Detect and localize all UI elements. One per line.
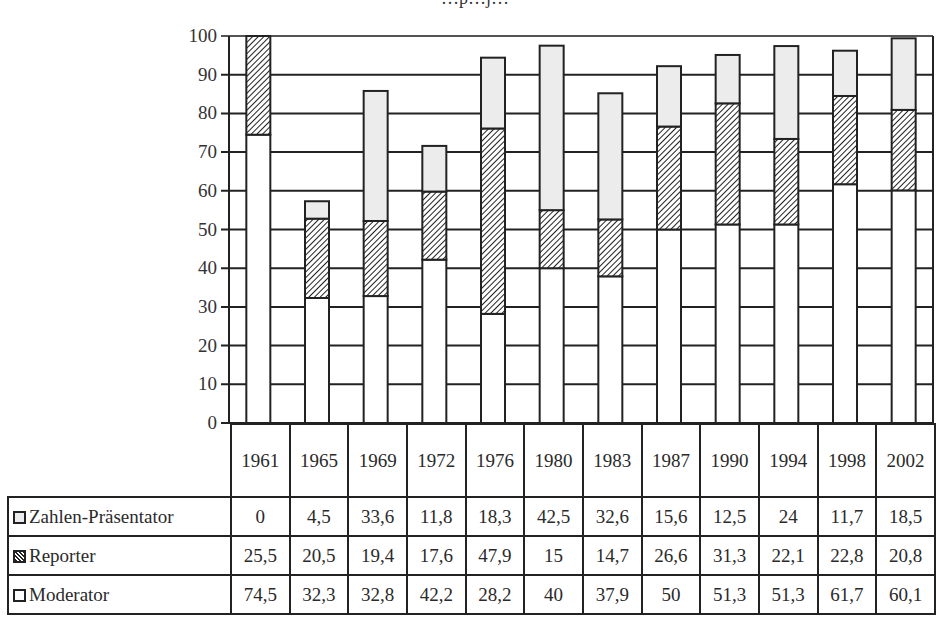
y-tick-label: 30 <box>198 296 217 317</box>
value-cell: 14,7 <box>583 536 642 575</box>
bar-segment-moderator <box>833 184 857 423</box>
year-header-cell: 1994 <box>759 424 818 497</box>
value-cell: 24 <box>759 497 818 536</box>
value-cell: 47,9 <box>466 536 525 575</box>
year-header-row: 1961196519691972197619801983198719901994… <box>8 424 935 497</box>
table-row: Zahlen-Präsentator04,533,611,818,342,532… <box>8 497 935 536</box>
value-cell: 60,1 <box>876 575 935 614</box>
bar-segment-moderator <box>540 268 564 423</box>
legend-swatch-icon <box>13 511 26 524</box>
bar-segment-reporter <box>481 128 505 313</box>
value-cell: 15,6 <box>642 497 701 536</box>
bar-segment-reporter <box>833 96 857 184</box>
bar-segment-reporter <box>657 127 681 230</box>
value-cell: 42,2 <box>407 575 466 614</box>
value-cell: 51,3 <box>700 575 759 614</box>
value-cell: 31,3 <box>700 536 759 575</box>
year-header-cell: 1987 <box>642 424 701 497</box>
value-cell: 32,3 <box>290 575 349 614</box>
table-row: Reporter25,520,519,417,647,91514,726,631… <box>8 536 935 575</box>
bar-segment-reporter <box>774 139 798 225</box>
year-header-cell: 1998 <box>818 424 877 497</box>
year-header-cell: 2002 <box>876 424 935 497</box>
bar-segment-reporter <box>364 221 388 296</box>
bar-segment-zahlen-präsentator <box>364 91 388 221</box>
value-cell: 28,2 <box>466 575 525 614</box>
bar-segment-zahlen-präsentator <box>598 93 622 219</box>
value-cell: 4,5 <box>290 497 349 536</box>
value-cell: 19,4 <box>348 536 407 575</box>
y-tick-label: 20 <box>198 335 217 356</box>
year-header-cell: 1976 <box>466 424 525 497</box>
value-cell: 12,5 <box>700 497 759 536</box>
bar-segment-reporter <box>892 110 916 190</box>
bar-segment-zahlen-präsentator <box>481 58 505 129</box>
year-header-cell: 1965 <box>290 424 349 497</box>
value-cell: 61,7 <box>818 575 877 614</box>
bar-segment-reporter <box>540 210 564 268</box>
year-header-cell: 1980 <box>524 424 583 497</box>
value-cell: 40 <box>524 575 583 614</box>
value-cell: 17,6 <box>407 536 466 575</box>
bar-segment-zahlen-präsentator <box>657 66 681 126</box>
bar-segment-reporter <box>716 103 740 224</box>
bar-segment-zahlen-präsentator <box>833 51 857 96</box>
year-header-cell: 1990 <box>700 424 759 497</box>
bar-segment-moderator <box>422 260 446 423</box>
bar-stack-1980 <box>540 46 564 423</box>
legend-swatch-icon <box>13 589 26 602</box>
value-cell: 18,5 <box>876 497 935 536</box>
bar-segment-zahlen-präsentator <box>305 201 329 218</box>
value-cell: 22,8 <box>818 536 877 575</box>
y-tick-label: 60 <box>198 180 217 201</box>
bar-stack-1983 <box>598 93 622 423</box>
bar-stack-1998 <box>833 51 857 423</box>
value-cell: 20,8 <box>876 536 935 575</box>
legend-entry: Reporter <box>8 536 231 575</box>
bar-segment-zahlen-präsentator <box>422 146 446 192</box>
y-tick-label: 80 <box>198 102 217 123</box>
bar-segment-zahlen-präsentator <box>774 46 798 139</box>
y-tick-label: 100 <box>189 25 218 46</box>
value-cell: 32,6 <box>583 497 642 536</box>
year-header-cell: 1983 <box>583 424 642 497</box>
bar-segment-moderator <box>246 135 270 423</box>
value-cell: 20,5 <box>290 536 349 575</box>
legend-label: Zahlen-Präsentator <box>29 506 174 527</box>
value-cell: 26,6 <box>642 536 701 575</box>
data-table: 1961196519691972197619801983198719901994… <box>7 423 936 615</box>
y-tick-label: 10 <box>198 373 217 394</box>
bar-stack-1961 <box>246 36 270 423</box>
value-cell: 15 <box>524 536 583 575</box>
bar-segment-moderator <box>657 230 681 424</box>
y-tick-label: 40 <box>198 257 217 278</box>
value-cell: 74,5 <box>231 575 290 614</box>
legend-swatch-icon <box>13 550 26 563</box>
legend-label: Moderator <box>29 584 109 605</box>
table-row: Moderator74,532,332,842,228,24037,95051,… <box>8 575 935 614</box>
y-tick-label: 70 <box>198 141 217 162</box>
bar-stack-1972 <box>422 146 446 423</box>
bar-segment-moderator <box>481 314 505 423</box>
y-tick-label: 90 <box>198 64 217 85</box>
bar-stack-1969 <box>364 91 388 423</box>
value-cell: 11,8 <box>407 497 466 536</box>
bar-stack-1990 <box>716 55 740 423</box>
bar-segment-moderator <box>774 224 798 423</box>
bar-segment-reporter <box>422 192 446 260</box>
bar-stack-1987 <box>657 66 681 423</box>
bar-stack-1994 <box>774 46 798 423</box>
legend-entry: Moderator <box>8 575 231 614</box>
bar-segment-reporter <box>305 219 329 298</box>
bar-stack-1976 <box>481 58 505 423</box>
bar-segment-moderator <box>305 298 329 423</box>
legend-label: Reporter <box>29 545 95 566</box>
bar-segment-moderator <box>364 296 388 423</box>
bar-segment-moderator <box>598 276 622 423</box>
bar-stack-2002 <box>892 38 916 423</box>
value-cell: 0 <box>231 497 290 536</box>
value-cell: 37,9 <box>583 575 642 614</box>
legend-entry: Zahlen-Präsentator <box>8 497 231 536</box>
bar-segment-zahlen-präsentator <box>716 55 740 103</box>
year-header-cell: 1972 <box>407 424 466 497</box>
